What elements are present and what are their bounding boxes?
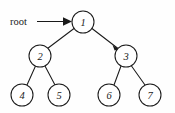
node-3[interactable]: 3 xyxy=(115,45,137,67)
node-5[interactable]: 5 xyxy=(48,84,70,106)
node-4-label: 4 xyxy=(19,90,25,101)
edge-1-to-2 xyxy=(48,29,75,49)
node-1[interactable]: 1 xyxy=(72,11,94,33)
node-1-label: 1 xyxy=(80,17,85,28)
root-pointer-arrowhead xyxy=(63,17,72,26)
edge-1-to-3 xyxy=(92,29,118,49)
node-7-label: 7 xyxy=(147,90,153,101)
node-2[interactable]: 2 xyxy=(29,45,51,67)
tree-canvas: root 1 2 3 4 5 xyxy=(0,0,175,113)
node-5-label: 5 xyxy=(56,90,61,101)
node-2-label: 2 xyxy=(37,51,43,62)
edge-2-to-5 xyxy=(45,66,55,85)
node-4[interactable]: 4 xyxy=(11,84,33,106)
edge-3-to-7 xyxy=(132,66,146,85)
edge-2-to-4 xyxy=(27,66,36,85)
edge-3-to-6 xyxy=(114,66,121,85)
node-3-label: 3 xyxy=(122,51,128,62)
node-6-label: 6 xyxy=(106,90,112,101)
node-group: 1 2 3 4 5 6 7 xyxy=(11,11,161,106)
node-7[interactable]: 7 xyxy=(139,84,161,106)
root-pointer: root xyxy=(10,16,72,27)
root-label: root xyxy=(10,16,27,27)
binary-tree-figure: root 1 2 3 4 5 xyxy=(0,0,175,113)
node-6[interactable]: 6 xyxy=(98,84,120,106)
